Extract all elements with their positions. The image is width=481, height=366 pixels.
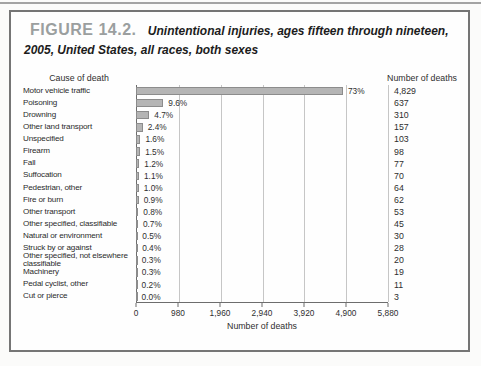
cause-label: Drowning: [22, 111, 136, 120]
bar-row: Poisoning9.6%637: [22, 97, 460, 109]
percent-label: 0.8%: [143, 207, 162, 217]
x-axis-tick: [178, 303, 179, 307]
chart-header: Cause of death Number of deaths: [22, 73, 460, 85]
cause-label: Firearm: [22, 147, 136, 156]
bar-cell: 2.4%: [136, 121, 388, 133]
bar-row: Other specified, classifiable0.7%45: [22, 218, 460, 230]
bar: [136, 292, 138, 300]
percent-label: 2.4%: [148, 122, 167, 132]
bar-row: Unspecified1.6%103: [22, 133, 460, 145]
deaths-value: 637: [388, 98, 409, 108]
bar: [136, 220, 138, 228]
percent-label: 1.5%: [145, 147, 164, 157]
percent-label: 0.3%: [142, 255, 161, 265]
top-rule-divider: [0, 2, 481, 4]
cause-label: Fire or burn: [22, 196, 136, 205]
x-axis-tick: [304, 303, 305, 307]
x-axis-tick: [262, 303, 263, 307]
bar: [136, 147, 140, 155]
bar-cell: 1.2%: [136, 158, 388, 170]
bar-row: Natural or environment0.5%30: [22, 230, 460, 242]
percent-label: 1.2%: [144, 159, 163, 169]
x-axis-tick-label: 5,880: [378, 308, 399, 318]
cause-label: Suffocation: [22, 171, 136, 180]
bar-cell: 1.1%: [136, 170, 388, 182]
percent-label: 0.5%: [142, 231, 161, 241]
bar: [136, 256, 138, 264]
deaths-value: 11: [388, 280, 403, 290]
percent-label: 0.3%: [142, 267, 161, 277]
page: FIGURE 14.2. Unintentional injuries, age…: [0, 0, 481, 366]
deaths-value: 45: [388, 219, 404, 229]
cause-label: Cut or pierce: [22, 292, 136, 301]
x-axis-tick-label: 980: [171, 308, 185, 318]
cause-label: Poisoning: [22, 99, 136, 108]
bar: [136, 123, 143, 131]
bar-cell: 0.3%: [136, 266, 388, 278]
bar: [136, 280, 138, 288]
bar-cell: 73%: [136, 85, 388, 97]
bar-cell: 0.7%: [136, 218, 388, 230]
percent-label: 9.6%: [168, 98, 187, 108]
bar-row: Pedestrian, other1.0%64: [22, 182, 460, 194]
x-axis-tick: [346, 303, 347, 307]
cause-label: Other transport: [22, 208, 136, 217]
bar-cell: 1.5%: [136, 145, 388, 157]
x-axis-title: Number of deaths: [136, 321, 388, 331]
bar: [136, 184, 139, 192]
bar-cell: 0.5%: [136, 230, 388, 242]
bar-cell: 4.7%: [136, 109, 388, 121]
bar-row: Cut or pierce0.0%3: [22, 291, 460, 303]
deaths-value: 157: [388, 122, 409, 132]
x-axis-tick: [220, 303, 221, 307]
cause-label: Other specified, classifiable: [22, 220, 136, 229]
figure-number: FIGURE 14.2.: [30, 21, 136, 38]
x-axis-tick-labels: 09801,9602,9403,9204,9005,880: [136, 308, 388, 318]
cause-label: Motor vehicle traffic: [22, 87, 136, 96]
bar-chart: Cause of death Number of deaths Motor ve…: [22, 73, 460, 331]
deaths-value: 53: [388, 207, 404, 217]
cause-label: Unspecified: [22, 135, 136, 144]
bar: [136, 232, 138, 240]
percent-label: 73%: [348, 86, 365, 96]
x-axis-tick-label: 1,960: [210, 308, 231, 318]
x-axis-tick-label: 2,940: [252, 308, 273, 318]
bar: [136, 268, 138, 276]
figure-box: FIGURE 14.2. Unintentional injuries, age…: [9, 10, 470, 352]
deaths-value: 103: [388, 134, 409, 144]
bar-row: Other transport0.8%53: [22, 206, 460, 218]
bar: [136, 87, 343, 95]
plot-area: Motor vehicle traffic73%4,829Poisoning9.…: [22, 85, 460, 303]
deaths-value: 98: [388, 147, 404, 157]
percent-label: 1.6%: [145, 134, 164, 144]
cause-label: Machinery: [22, 268, 136, 277]
bar-row: Suffocation1.1%70: [22, 170, 460, 182]
bar-cell: 0.8%: [136, 206, 388, 218]
bar: [136, 159, 139, 167]
bar-row: Pedal cyclist, other0.2%11: [22, 279, 460, 291]
figure-title: FIGURE 14.2. Unintentional injuries, age…: [11, 12, 468, 60]
cause-label: Natural or environment: [22, 232, 136, 241]
bar-cell: 1.6%: [136, 133, 388, 145]
deaths-value: 310: [388, 110, 409, 120]
bar: [136, 208, 138, 216]
percent-label: 0.7%: [143, 219, 162, 229]
percent-label: 1.1%: [144, 171, 163, 181]
percent-label: 0.9%: [144, 195, 163, 205]
bar-rows: Motor vehicle traffic73%4,829Poisoning9.…: [22, 85, 460, 303]
deaths-value: 64: [388, 183, 404, 193]
deaths-value: 28: [388, 243, 404, 253]
bar-row: Firearm1.5%98: [22, 145, 460, 157]
deaths-value: 77: [388, 159, 404, 169]
bar-row: Motor vehicle traffic73%4,829: [22, 85, 460, 97]
bar-row: Fall1.2%77: [22, 158, 460, 170]
cause-label: Pedestrian, other: [22, 184, 136, 193]
percent-label: 0.4%: [142, 243, 161, 253]
deaths-value: 20: [388, 255, 404, 265]
percent-label: 0.0%: [142, 292, 161, 302]
bar-row: Drowning4.7%310: [22, 109, 460, 121]
bar-row: Machinery0.3%19: [22, 266, 460, 278]
x-axis-tick-label: 3,920: [294, 308, 315, 318]
x-axis-tick-label: 0: [134, 308, 139, 318]
cause-label: Fall: [22, 159, 136, 168]
